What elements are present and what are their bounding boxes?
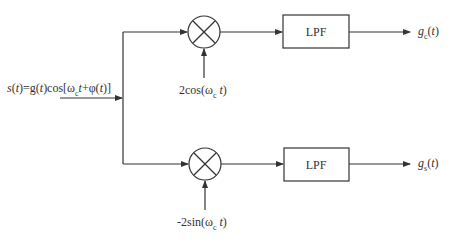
branch-in-phase: 2cos(ωc t) LPF gc(t) <box>123 15 439 100</box>
carrier-label-top: 2cos(ωc t) <box>179 83 227 100</box>
quadrature-demodulator-diagram: s(t)=g(t)cos[ωct+φ(t)] 2cos(ωc t) LPF gc… <box>0 0 455 244</box>
input-signal-label: s(t)=g(t)cos[ωct+φ(t)] <box>7 81 111 98</box>
branch-quadrature: -2sin(ωc t) LPF gs(t) <box>123 148 438 232</box>
multiplier-top <box>188 16 220 48</box>
multiplier-bottom <box>189 148 221 180</box>
lpf-label-bottom: LPF <box>306 158 327 172</box>
lpf-label-top: LPF <box>306 25 327 39</box>
carrier-label-bottom: -2sin(ωc t) <box>177 215 227 232</box>
output-label-bottom: gs(t) <box>418 156 438 173</box>
output-label-top: gc(t) <box>418 24 439 41</box>
